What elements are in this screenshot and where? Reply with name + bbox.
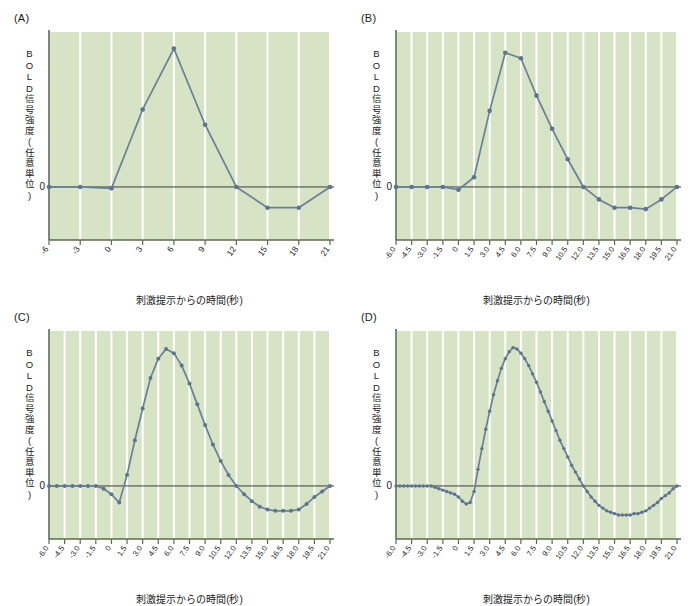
svg-text:7.5: 7.5: [525, 245, 538, 259]
svg-text:12: 12: [224, 244, 238, 258]
svg-text:13.5: 13.5: [238, 544, 254, 561]
panel-a: (A) BOLD信号強度(任意単位) 0 TR = 3,000ミリ秒 -6-30…: [0, 0, 346, 298]
x-axis-label-d: 刺激提示からの時間(秒): [396, 591, 677, 606]
svg-text:18.0: 18.0: [632, 544, 648, 561]
svg-text:12.0: 12.0: [569, 544, 585, 561]
svg-text:-1.5: -1.5: [83, 544, 98, 560]
svg-text:15.0: 15.0: [600, 245, 616, 262]
svg-text:16.5: 16.5: [269, 544, 285, 561]
svg-text:19.5: 19.5: [647, 544, 663, 561]
svg-text:-1.5: -1.5: [430, 245, 445, 261]
svg-text:9: 9: [196, 244, 207, 254]
svg-text:15.0: 15.0: [253, 544, 269, 561]
svg-text:-6.0: -6.0: [383, 544, 398, 560]
svg-text:12.0: 12.0: [569, 245, 585, 262]
svg-text:21.0: 21.0: [663, 245, 679, 262]
svg-text:19.5: 19.5: [647, 245, 663, 262]
panel-d: (D) BOLD信号強度(任意単位) 0 TR = 375ミリ秒 -6.0-4.…: [347, 299, 693, 597]
svg-text:-3: -3: [69, 244, 82, 256]
svg-text:3.0: 3.0: [478, 544, 491, 558]
x-axis-label-c: 刺激提示からの時間(秒): [49, 591, 330, 606]
svg-text:18: 18: [287, 244, 301, 258]
svg-text:3: 3: [133, 244, 144, 254]
plot-area-c: -6.0-4.5-3.0-1.501.53.04.56.07.59.010.51…: [0, 299, 346, 587]
plot-area-a: -6-3036912151821: [0, 0, 346, 288]
svg-text:18.0: 18.0: [632, 245, 648, 262]
svg-text:-4.5: -4.5: [51, 544, 66, 560]
svg-text:6: 6: [165, 244, 176, 254]
svg-text:1.5: 1.5: [462, 544, 475, 558]
svg-text:15: 15: [256, 244, 270, 258]
svg-text:6.0: 6.0: [509, 245, 522, 259]
svg-text:4.5: 4.5: [493, 544, 506, 558]
svg-text:3.0: 3.0: [478, 245, 491, 259]
svg-text:12.0: 12.0: [222, 544, 238, 561]
svg-text:9.0: 9.0: [193, 544, 206, 558]
svg-text:-3.0: -3.0: [414, 245, 429, 261]
svg-text:-4.5: -4.5: [398, 544, 413, 560]
svg-text:-6.0: -6.0: [383, 245, 398, 261]
svg-text:15.0: 15.0: [600, 544, 616, 561]
svg-text:6.0: 6.0: [509, 544, 522, 558]
svg-text:21.0: 21.0: [663, 544, 679, 561]
svg-text:13.5: 13.5: [585, 245, 601, 262]
svg-text:4.5: 4.5: [146, 544, 159, 558]
svg-text:21: 21: [318, 244, 332, 258]
svg-text:3.0: 3.0: [131, 544, 144, 558]
svg-text:6.0: 6.0: [162, 544, 175, 558]
svg-text:1.5: 1.5: [115, 544, 128, 558]
svg-text:-1.5: -1.5: [430, 544, 445, 560]
svg-text:9.0: 9.0: [540, 245, 553, 259]
svg-text:10.5: 10.5: [554, 245, 570, 262]
svg-text:10.5: 10.5: [207, 544, 223, 561]
svg-text:-3.0: -3.0: [67, 544, 82, 560]
svg-text:0: 0: [450, 544, 460, 553]
svg-text:-6.0: -6.0: [36, 544, 51, 560]
svg-text:-3.0: -3.0: [414, 544, 429, 560]
svg-text:18.0: 18.0: [285, 544, 301, 561]
svg-text:13.5: 13.5: [585, 544, 601, 561]
svg-text:0: 0: [450, 245, 460, 254]
svg-text:0: 0: [103, 544, 113, 553]
svg-text:19.5: 19.5: [300, 544, 316, 561]
svg-text:4.5: 4.5: [493, 245, 506, 259]
svg-text:-6: -6: [38, 244, 51, 256]
svg-text:16.5: 16.5: [616, 245, 632, 262]
panel-b: (B) BOLD信号強度(任意単位) 0 TR = 1,500ミリ秒 -6.0-…: [347, 0, 693, 298]
svg-text:7.5: 7.5: [525, 544, 538, 558]
plot-area-b: -6.0-4.5-3.0-1.501.53.04.56.07.59.010.51…: [347, 0, 693, 288]
svg-text:7.5: 7.5: [178, 544, 191, 558]
svg-text:9.0: 9.0: [540, 544, 553, 558]
svg-text:10.5: 10.5: [554, 544, 570, 561]
plot-area-d: -6.0-4.5-3.0-1.501.53.04.56.07.59.010.51…: [347, 299, 693, 587]
svg-text:0: 0: [102, 244, 113, 254]
svg-text:-4.5: -4.5: [398, 245, 413, 261]
svg-text:16.5: 16.5: [616, 544, 632, 561]
svg-text:1.5: 1.5: [462, 245, 475, 259]
svg-text:21.0: 21.0: [316, 544, 332, 561]
panel-c: (C) BOLD信号強度(任意単位) 0 TR = 750ミリ秒 -6.0-4.…: [0, 299, 346, 597]
